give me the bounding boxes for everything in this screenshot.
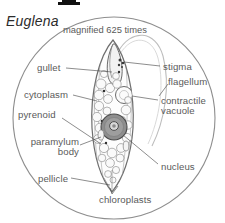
label-cytoplasm: cytoplasm — [24, 90, 68, 101]
leader-stigma — [124, 62, 160, 66]
leader-contractile — [132, 96, 158, 100]
label-pyrenoid: pyrenoid — [18, 110, 56, 121]
magnification-caption: magnified 625 times — [63, 24, 147, 35]
nucleolus-core — [112, 124, 116, 128]
label-pellicle: pellicle — [38, 174, 68, 185]
label-flagellum: flagellum — [168, 77, 207, 88]
label-paramylum-body: paramylum body — [17, 137, 79, 157]
label-nucleus: nucleus — [161, 162, 195, 173]
top-black-mark — [62, 0, 76, 5]
figure-title: Euglena — [6, 13, 59, 29]
label-stigma: stigma — [163, 62, 192, 73]
label-chloroplasts: chloroplasts — [99, 195, 151, 206]
figure-canvas: Euglena magnified 625 times gullet cytop… — [0, 0, 225, 223]
label-gullet: gullet — [37, 63, 61, 74]
label-contractile-vacuole: contractile vacuole — [161, 96, 223, 116]
